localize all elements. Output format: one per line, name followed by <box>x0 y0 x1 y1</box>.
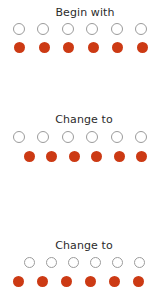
dot-row-begin-filled <box>0 42 164 53</box>
filled-circle-icon <box>61 276 72 287</box>
panel-change-to-1-label: Change to <box>4 113 164 126</box>
panel-begin-with: Begin with <box>0 6 164 53</box>
filled-circle-icon <box>13 276 24 287</box>
hollow-circle-icon <box>13 23 25 35</box>
hollow-circle-icon <box>13 131 25 143</box>
hollow-circle-icon <box>62 131 74 143</box>
filled-circle-icon <box>63 42 74 53</box>
dot-row-change2-filled <box>0 276 164 287</box>
filled-circle-icon <box>137 42 148 53</box>
hollow-circle-icon <box>37 23 49 35</box>
dot-row-change2-hollow <box>0 257 164 268</box>
hollow-circle-icon <box>46 257 57 268</box>
filled-circle-icon <box>24 151 35 162</box>
hollow-circle-icon <box>111 23 123 35</box>
filled-circle-icon <box>109 276 120 287</box>
filled-circle-icon <box>112 42 123 53</box>
filled-circle-icon <box>39 42 50 53</box>
dot-row-change1-hollow <box>0 131 164 143</box>
hollow-circle-icon <box>68 257 79 268</box>
hollow-circle-icon <box>134 257 145 268</box>
hollow-circle-icon <box>62 23 74 35</box>
hollow-circle-icon <box>135 23 147 35</box>
panel-change-to-2-label: Change to <box>4 239 164 252</box>
filled-circle-icon <box>133 276 144 287</box>
panel-begin-with-label: Begin with <box>6 6 164 19</box>
hollow-circle-icon <box>86 23 98 35</box>
panel-change-to-1: Change to <box>0 113 164 162</box>
hollow-circle-icon <box>112 257 123 268</box>
hollow-circle-icon <box>37 131 49 143</box>
filled-circle-icon <box>37 276 48 287</box>
filled-circle-icon <box>85 276 96 287</box>
dot-row-begin-hollow <box>0 23 164 35</box>
filled-circle-icon <box>46 151 57 162</box>
filled-circle-icon <box>88 42 99 53</box>
filled-circle-icon <box>91 151 102 162</box>
panel-change-to-2: Change to <box>0 239 164 287</box>
diagram-root: Begin with Change to <box>0 0 164 304</box>
dot-row-change1-filled <box>0 151 164 162</box>
filled-circle-icon <box>136 151 147 162</box>
filled-circle-icon <box>69 151 80 162</box>
filled-circle-icon <box>114 151 125 162</box>
filled-circle-icon <box>14 42 25 53</box>
hollow-circle-icon <box>135 131 147 143</box>
hollow-circle-icon <box>90 257 101 268</box>
hollow-circle-icon <box>24 257 35 268</box>
hollow-circle-icon <box>86 131 98 143</box>
hollow-circle-icon <box>111 131 123 143</box>
